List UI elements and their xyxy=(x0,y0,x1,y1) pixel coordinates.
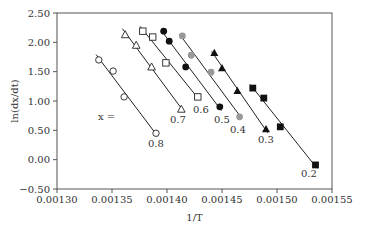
marker-0.6 xyxy=(195,94,201,100)
series-label-0.7: 0.7 xyxy=(170,114,186,125)
marker-0.5 xyxy=(182,64,189,71)
marker-0.4 xyxy=(188,52,195,59)
y-tick-label: 0.00 xyxy=(28,154,50,165)
fit-lines xyxy=(96,26,317,168)
marker-0.3 xyxy=(210,49,218,56)
y-tick-label: 2.00 xyxy=(28,37,50,48)
marker-0.8 xyxy=(96,57,102,63)
marker-0.8 xyxy=(153,130,159,136)
series-label-0.4: 0.4 xyxy=(230,124,246,135)
marker-0.5 xyxy=(160,28,167,35)
series-label-0.8: 0.8 xyxy=(148,138,164,149)
series-label-0.5: 0.5 xyxy=(214,114,230,125)
marker-0.6 xyxy=(163,60,169,66)
marker-0.8 xyxy=(121,94,127,100)
marker-0.4 xyxy=(236,113,243,120)
fit-line-0.6 xyxy=(140,26,199,100)
marker-0.6 xyxy=(140,28,146,34)
marker-0.5 xyxy=(216,103,223,110)
x-tick-label: 0.00135 xyxy=(91,194,132,205)
marker-0.7 xyxy=(178,105,186,112)
x-tick-label: 0.00130 xyxy=(36,194,77,205)
marker-0.2 xyxy=(249,85,256,92)
series-label-0.2: 0.2 xyxy=(301,168,317,179)
series-label-0.6: 0.6 xyxy=(193,104,209,115)
marker-0.2 xyxy=(277,123,284,130)
x-tick-label: 0.00150 xyxy=(256,194,297,205)
x-tick-label: 0.00155 xyxy=(311,194,352,205)
marker-0.6 xyxy=(150,34,156,40)
y-tick-label: 2.50 xyxy=(28,8,50,19)
marker-0.5 xyxy=(166,38,173,45)
chart: 2.502.001.501.000.500.00−0.500.001300.00… xyxy=(0,0,369,232)
marker-0.2 xyxy=(260,95,267,102)
y-axis-label: ln(dx/dt) xyxy=(9,79,20,122)
fit-line-0.4 xyxy=(180,34,242,117)
y-tick-label: 0.50 xyxy=(28,125,50,136)
y-tick-label: 1.00 xyxy=(28,96,50,107)
x-axis-label: 1/T xyxy=(186,212,203,223)
marker-0.3 xyxy=(233,87,241,94)
y-tick-label: 1.50 xyxy=(28,66,50,77)
series-label-0.3: 0.3 xyxy=(258,134,274,145)
marker-0.7 xyxy=(132,41,140,48)
marker-0.7 xyxy=(121,31,129,38)
x-equals-label: x = xyxy=(98,111,115,122)
marker-0.8 xyxy=(110,68,116,74)
x-tick-label: 0.00145 xyxy=(201,194,242,205)
marker-0.4 xyxy=(208,69,215,76)
plot-frame xyxy=(57,13,332,189)
x-tick-label: 0.00140 xyxy=(146,194,187,205)
y-tick-label: −0.50 xyxy=(19,184,50,195)
marker-0.3 xyxy=(218,64,226,71)
marker-0.4 xyxy=(179,32,186,39)
